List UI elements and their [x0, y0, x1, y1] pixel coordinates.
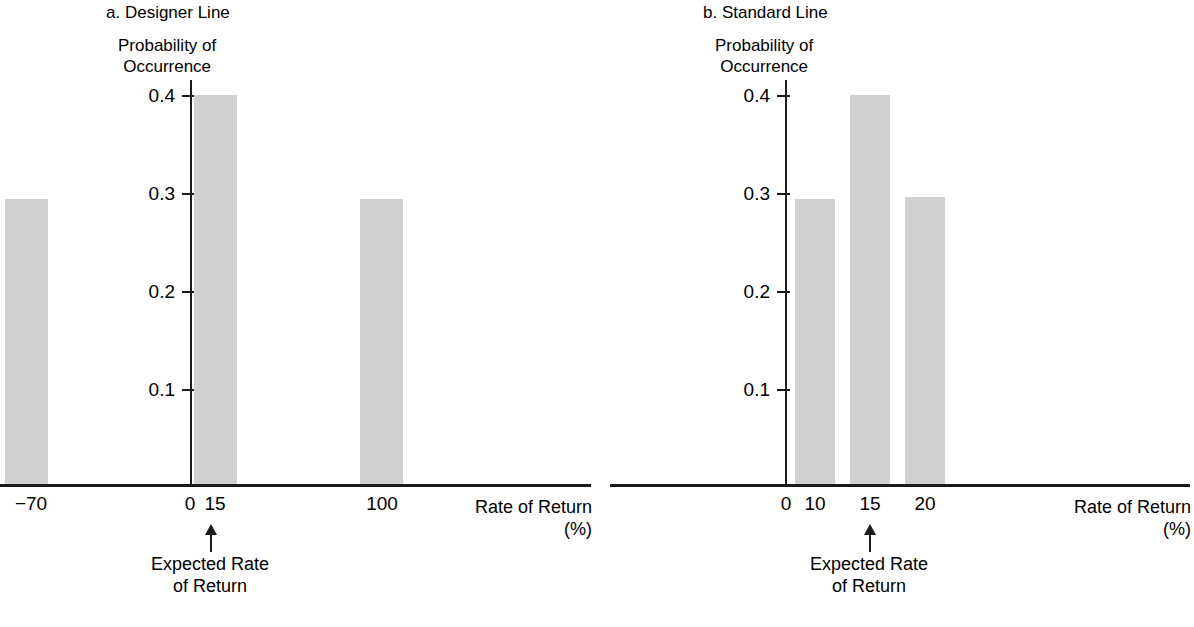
bar-100-a	[360, 199, 403, 484]
bar-20-b	[905, 197, 945, 484]
bar-15-a	[194, 95, 237, 484]
x-axis-title-line2: (%)	[380, 518, 592, 540]
x-tick-label-15-a: 15	[194, 494, 236, 513]
x-axis-line-b	[610, 484, 1190, 487]
y-tick-mark-0.4-b	[777, 95, 790, 97]
y-tick-mark-0.3-b	[777, 193, 790, 195]
annotation-line2: of Return	[110, 575, 310, 597]
y-axis-line-b	[785, 80, 787, 486]
expected-return-annotation-a: Expected Rate of Return	[110, 553, 310, 597]
x-tick-label-20-b: 20	[905, 494, 945, 513]
plot-area-a: 0.4 0.3 0.2 0.1 −70 0 15 100 Rate of Ret…	[0, 0, 597, 627]
annotation-line1: Expected Rate	[769, 553, 969, 575]
arrow-shaft-a	[210, 534, 212, 552]
arrow-shaft-b	[869, 534, 871, 552]
y-tick-mark-0.1-b	[777, 389, 790, 391]
y-tick-mark-0.2-b	[777, 291, 790, 293]
y-tick-label-0.2-a: 0.2	[100, 282, 175, 301]
bar-15-b	[850, 95, 890, 484]
x-tick-label-15-b: 15	[850, 494, 890, 513]
annotation-line1: Expected Rate	[110, 553, 310, 575]
y-tick-label-0.4-a: 0.4	[100, 86, 175, 105]
x-axis-title-line1: Rate of Return	[380, 496, 592, 518]
y-tick-label-0.2-b: 0.2	[695, 282, 770, 301]
bar-10-b	[795, 199, 835, 484]
x-axis-title-b: Rate of Return (%)	[979, 496, 1191, 540]
expected-return-annotation-b: Expected Rate of Return	[769, 553, 969, 597]
x-tick-label-10-b: 10	[795, 494, 835, 513]
bar-minus70-a	[5, 199, 48, 484]
y-axis-line-a	[190, 80, 192, 486]
x-tick-label-minus70-a: −70	[0, 494, 62, 513]
plot-area-b: 0.4 0.3 0.2 0.1 0 10 15 20 Rate of Retur…	[597, 0, 1194, 627]
x-axis-title-line2: (%)	[979, 518, 1191, 540]
chart-panel-standard-line: b. Standard Line Probability of Occurren…	[597, 0, 1194, 627]
y-tick-label-0.1-b: 0.1	[695, 380, 770, 399]
x-axis-title-line1: Rate of Return	[979, 496, 1191, 518]
x-axis-title-a: Rate of Return (%)	[380, 496, 592, 540]
x-axis-line-a	[0, 484, 591, 487]
y-tick-label-0.3-a: 0.3	[100, 184, 175, 203]
y-tick-label-0.1-a: 0.1	[100, 380, 175, 399]
annotation-line2: of Return	[769, 575, 969, 597]
y-tick-label-0.4-b: 0.4	[695, 86, 770, 105]
chart-panel-designer-line: a. Designer Line Probability of Occurren…	[0, 0, 597, 627]
y-tick-label-0.3-b: 0.3	[695, 184, 770, 203]
